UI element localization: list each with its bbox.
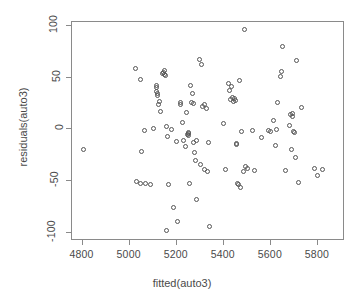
y-tick-label: -100 [0,225,62,237]
data-point [151,126,156,131]
data-point [166,182,171,187]
data-point [199,62,204,67]
data-point [279,69,284,74]
data-point [188,83,193,88]
y-tick [66,180,71,181]
data-point [192,150,197,155]
data-point [154,83,159,88]
data-point [191,101,196,106]
scatter-plot-figure: 480050005200540056005800 100500-50-100 f… [0,0,364,303]
y-tick [66,25,71,26]
x-tick [82,240,83,245]
data-point [280,44,285,49]
data-point [190,91,195,96]
x-tick-label: 5000 [109,248,149,260]
data-point [165,134,170,139]
plot-area-frame [71,21,344,240]
data-point [193,158,198,163]
data-point [250,128,255,133]
data-point [299,105,304,110]
data-point [142,128,147,133]
x-tick [317,240,318,245]
y-tick-label: 100 [0,18,62,30]
data-point [287,123,292,128]
y-axis-label: residuals(auto3) [17,47,29,207]
data-point [169,127,174,132]
y-tick [66,77,71,78]
data-point [294,58,299,63]
data-point [198,162,203,167]
data-point [233,98,238,103]
x-tick [176,240,177,245]
y-tick [66,128,71,129]
data-point [133,66,138,71]
data-point [171,205,176,210]
data-point [275,100,280,105]
data-point [221,121,226,126]
data-point [292,130,297,135]
data-point [183,144,188,149]
x-tick-label: 5600 [250,248,290,260]
data-point [158,109,163,114]
data-point [197,57,202,62]
x-axis-label: fitted(auto3) [0,277,364,289]
x-tick [270,240,271,245]
data-point [174,139,179,144]
x-tick-label: 5200 [156,248,196,260]
data-point [148,182,153,187]
x-tick-label: 5800 [297,248,337,260]
y-tick-label: 0 [0,121,62,133]
y-tick-label: -50 [0,173,62,185]
data-point [194,197,199,202]
data-point [163,73,168,78]
data-point [181,138,186,143]
data-point [289,147,294,152]
data-points-layer [72,22,343,239]
data-point [242,27,247,32]
data-point [229,84,234,89]
y-tick [66,232,71,233]
data-point [271,118,276,123]
data-point [245,166,250,171]
data-point [320,167,325,172]
x-tick [129,240,130,245]
x-tick [223,240,224,245]
data-point [296,180,301,185]
data-point [206,140,211,145]
data-point [290,111,295,116]
data-point [164,228,169,233]
data-point [139,149,144,154]
data-point [274,127,279,132]
data-point [205,169,210,174]
data-point [237,78,242,83]
data-point [259,135,264,140]
data-point [234,142,239,147]
data-point [204,106,209,111]
data-point [283,168,288,173]
data-point [312,166,317,171]
data-point [223,167,228,172]
data-point [273,143,278,148]
data-point [180,120,185,125]
x-tick-label: 4800 [62,248,102,260]
data-point [81,147,86,152]
data-point [252,168,257,173]
data-point [138,77,143,82]
data-point [315,173,320,178]
data-point [238,185,243,190]
y-tick-label: 50 [0,70,62,82]
data-point [187,181,192,186]
x-tick-label: 5400 [203,248,243,260]
data-point [186,133,191,138]
data-point [178,102,183,107]
data-point [268,129,273,134]
data-point [293,155,298,160]
data-point [239,129,244,134]
data-point [194,138,199,143]
data-point [207,224,212,229]
data-point [175,219,180,224]
data-point [278,74,283,79]
data-point [184,110,189,115]
data-point [157,99,162,104]
